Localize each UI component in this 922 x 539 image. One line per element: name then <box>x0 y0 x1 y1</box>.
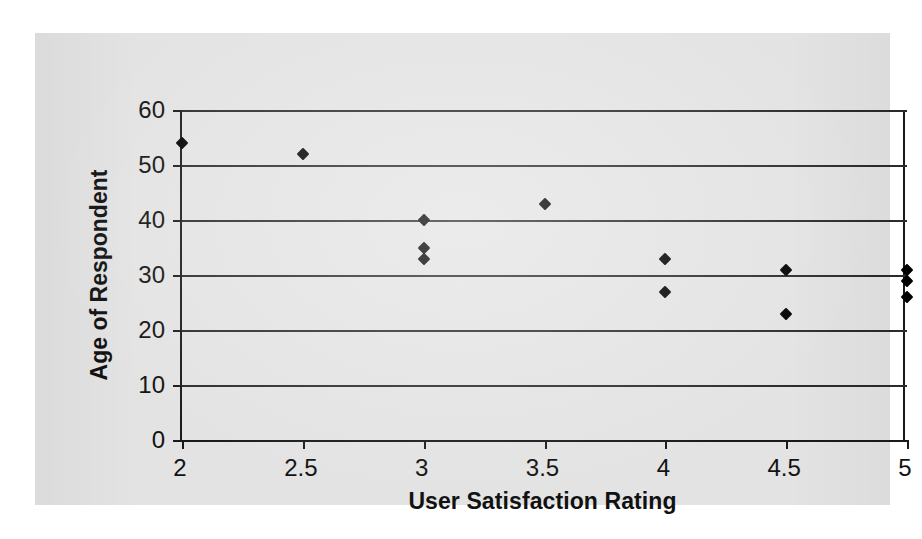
data-point <box>659 285 672 298</box>
x-axis-tick <box>182 440 184 449</box>
gridline <box>182 275 907 277</box>
y-axis-tick-label: 30 <box>119 263 165 287</box>
x-axis-tick <box>665 440 667 449</box>
x-axis-tick <box>786 440 788 449</box>
y-axis-tick-label: 0 <box>119 428 165 452</box>
x-axis-tick <box>303 440 305 449</box>
y-axis-tick <box>173 220 182 222</box>
gridline <box>182 110 907 112</box>
data-point <box>901 291 914 304</box>
y-axis-tick <box>173 110 182 112</box>
data-point <box>538 197 551 210</box>
data-point <box>417 214 430 227</box>
y-axis-tick-label: 60 <box>119 98 165 122</box>
y-axis-tick <box>173 440 182 442</box>
x-axis-tick-label: 2.5 <box>266 456 336 480</box>
gridline <box>182 220 907 222</box>
gridline <box>182 385 907 387</box>
x-axis-tick <box>545 440 547 449</box>
figure-panel: Age of Respondent 0102030405060 22.533.5… <box>35 33 890 505</box>
gridline <box>182 330 907 332</box>
y-axis-label: Age of Respondent <box>86 170 113 381</box>
plot-area <box>180 110 905 440</box>
data-point <box>417 252 430 265</box>
x-axis-tick-label: 2 <box>145 456 215 480</box>
scatter-plot-figure: Age of Respondent 0102030405060 22.533.5… <box>0 0 922 539</box>
y-axis-tick-label: 10 <box>119 373 165 397</box>
x-axis-label: User Satisfaction Rating <box>180 488 905 515</box>
data-point <box>296 148 309 161</box>
y-axis-tick <box>173 330 182 332</box>
x-axis-tick-label: 3.5 <box>508 456 578 480</box>
x-axis-tick-label: 5 <box>870 456 922 480</box>
y-axis-tick <box>173 385 182 387</box>
y-axis-label-container: Age of Respondent <box>82 110 116 440</box>
gridline <box>182 165 907 167</box>
y-axis-tick-label: 40 <box>119 208 165 232</box>
x-axis-tick <box>907 440 909 449</box>
data-point <box>780 307 793 320</box>
y-axis-tick-label: 50 <box>119 153 165 177</box>
y-axis-tick-label: 20 <box>119 318 165 342</box>
x-axis-tick-label: 4 <box>628 456 698 480</box>
y-axis-tick <box>173 165 182 167</box>
x-axis-tick-label: 3 <box>387 456 457 480</box>
y-axis-tick <box>173 275 182 277</box>
data-point <box>659 252 672 265</box>
x-axis-tick-label: 4.5 <box>749 456 819 480</box>
data-point <box>780 263 793 276</box>
data-point <box>176 137 189 150</box>
x-axis-tick <box>424 440 426 449</box>
